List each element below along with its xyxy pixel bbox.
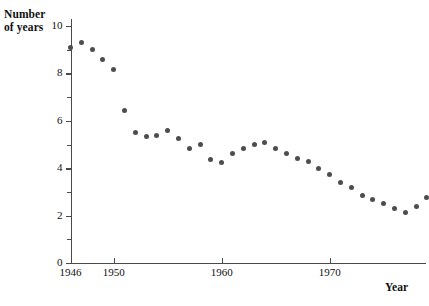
data-point <box>381 201 386 206</box>
data-point <box>338 180 343 185</box>
x-tick-label: 1960 <box>202 266 242 278</box>
x-tick-major <box>114 258 115 263</box>
data-point <box>306 159 311 164</box>
data-point <box>370 197 375 202</box>
data-point <box>154 133 159 138</box>
data-point <box>144 134 149 139</box>
data-point <box>90 47 95 52</box>
data-point <box>252 142 257 147</box>
y-tick-minor <box>67 97 71 98</box>
y-tick-minor <box>67 145 71 146</box>
data-point <box>79 40 84 45</box>
data-point <box>208 157 213 162</box>
data-point <box>327 172 332 177</box>
data-point <box>176 136 181 141</box>
data-point <box>111 67 116 72</box>
y-tick-major <box>66 263 71 264</box>
data-point <box>230 151 235 156</box>
data-point <box>295 156 300 161</box>
data-point <box>403 210 408 215</box>
x-axis-line <box>71 263 426 264</box>
y-tick-minor <box>67 50 71 51</box>
y-tick-minor <box>67 239 71 240</box>
data-point <box>284 151 289 156</box>
data-point <box>133 130 138 135</box>
x-tick-label: 1950 <box>94 266 134 278</box>
data-point <box>424 195 429 200</box>
x-tick-label: 1970 <box>310 266 350 278</box>
data-point <box>349 185 354 190</box>
y-tick-major <box>66 121 71 122</box>
data-point <box>219 160 224 165</box>
data-point <box>360 193 365 198</box>
y-tick-minor <box>67 192 71 193</box>
data-point <box>241 146 246 151</box>
y-tick-label: 8 <box>31 66 63 78</box>
y-tick-label: 2 <box>31 209 63 221</box>
y-tick-label: 4 <box>31 161 63 173</box>
x-tick-label: 1946 <box>51 266 91 278</box>
data-point <box>122 108 127 113</box>
y-tick-major <box>66 168 71 169</box>
data-point <box>392 206 397 211</box>
x-tick-major <box>222 258 223 263</box>
y-tick-major <box>66 73 71 74</box>
data-point <box>414 204 419 209</box>
data-point <box>68 45 73 50</box>
y-tick-label: 10 <box>31 19 63 31</box>
data-point <box>273 146 278 151</box>
y-axis-line <box>71 19 72 263</box>
data-point <box>262 140 267 145</box>
data-point <box>100 57 105 62</box>
data-point <box>316 166 321 171</box>
data-point <box>165 128 170 133</box>
data-point <box>187 146 192 151</box>
x-tick-major <box>330 258 331 263</box>
y-tick-major <box>66 26 71 27</box>
y-tick-label: 6 <box>31 114 63 126</box>
y-tick-major <box>66 216 71 217</box>
data-point <box>198 142 203 147</box>
